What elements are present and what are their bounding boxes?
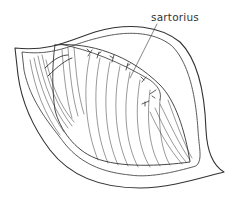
retracted-flap — [45, 55, 72, 76]
label-leader-line — [130, 24, 157, 78]
sartorius-label: sartorius — [151, 11, 199, 23]
illustration-drawing — [0, 0, 228, 203]
fiber-lines-right — [150, 100, 192, 164]
anatomical-illustration: sartorius — [0, 0, 228, 203]
fiber-lines-main — [86, 55, 170, 167]
fiber-lines-left — [30, 47, 84, 135]
